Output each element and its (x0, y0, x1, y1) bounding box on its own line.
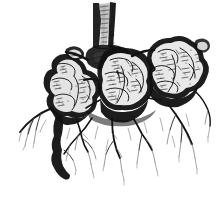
cut-stem (93, 2, 116, 49)
root-illustration-svg (0, 0, 223, 198)
botanical-figure (0, 0, 223, 198)
